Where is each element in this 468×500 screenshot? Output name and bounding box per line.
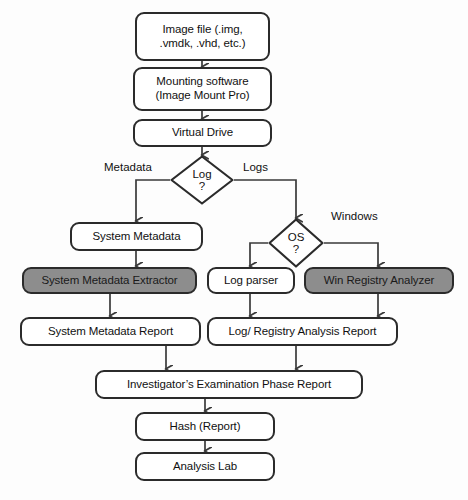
node-investigator-report[interactable]: Investigator’s Examination Phase Report [95,370,363,399]
decision-log-line2: ? [199,180,205,192]
edge-logdecision-systemmetadata [136,180,170,221]
node-system-metadata-report[interactable]: System Metadata Report [20,317,201,346]
node-mounting-software-text: Mounting software (Image Mount Pro) [155,75,249,102]
flowchart-canvas: Image file (.img, .vmdk, .vhd, etc.) Mou… [0,0,468,500]
node-system-metadata-extractor-label: System Metadata Extractor [41,274,177,288]
node-virtual-drive[interactable]: Virtual Drive [133,119,272,147]
edge-osdecision-logparser [250,243,268,266]
node-mounting-software-line1: Mounting software [156,75,248,87]
edge-label-logs: Logs [243,161,268,173]
decision-os-line1: OS [288,231,305,243]
node-analysis-lab[interactable]: Analysis Lab [135,452,275,481]
node-hash-report-label: Hash (Report) [170,420,241,434]
node-system-metadata[interactable]: System Metadata [70,222,203,251]
edge-osdecision-winregistry [324,243,378,266]
edge-logdecision-osdecision [234,180,296,218]
node-system-metadata-report-label: System Metadata Report [48,325,173,339]
node-image-file-line1: Image file (.img, [162,23,242,35]
node-win-registry-analyzer[interactable]: Win Registry Analyzer [304,267,454,294]
node-log-parser[interactable]: Log parser [207,267,295,294]
node-system-metadata-extractor[interactable]: System Metadata Extractor [22,267,197,294]
node-log-registry-analysis-report-label: Log/ Registry Analysis Report [229,325,377,339]
decision-log[interactable]: Log ? [170,155,234,205]
node-log-parser-label: Log parser [224,274,278,288]
decision-os-line2: ? [293,243,299,255]
node-hash-report[interactable]: Hash (Report) [135,412,275,441]
node-analysis-lab-label: Analysis Lab [173,460,237,474]
decision-os-label: OS ? [268,218,324,268]
edge-label-windows: Windows [331,210,378,222]
node-image-file-line2: .vmdk, .vhd, etc.) [160,37,246,51]
node-mounting-software-line2: (Image Mount Pro) [155,89,249,103]
node-image-file-text: Image file (.img, .vmdk, .vhd, etc.) [160,23,246,50]
edge-label-metadata: Metadata [104,161,152,173]
node-image-file[interactable]: Image file (.img, .vmdk, .vhd, etc.) [135,12,270,61]
decision-log-label: Log ? [170,155,234,205]
node-mounting-software[interactable]: Mounting software (Image Mount Pro) [133,67,272,111]
decision-log-line1: Log [192,168,211,180]
node-win-registry-analyzer-label: Win Registry Analyzer [324,274,434,288]
decision-os[interactable]: OS ? [268,218,324,268]
node-virtual-drive-label: Virtual Drive [172,126,233,140]
node-investigator-report-label: Investigator’s Examination Phase Report [127,378,331,392]
node-log-registry-analysis-report[interactable]: Log/ Registry Analysis Report [207,317,398,346]
node-system-metadata-label: System Metadata [93,230,181,244]
